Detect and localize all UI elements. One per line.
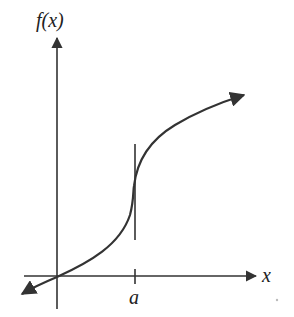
function-graph: f(x) x a [0, 0, 294, 317]
x-axis-label: x [261, 264, 271, 286]
function-curve-left [22, 277, 57, 294]
function-curve [57, 95, 244, 277]
speck [276, 299, 278, 301]
tick-label-a: a [129, 286, 139, 308]
y-axis-label: f(x) [36, 9, 64, 32]
